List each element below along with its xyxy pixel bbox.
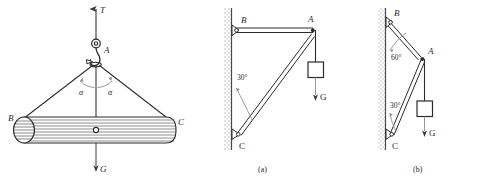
label-end-b: B [8, 113, 14, 123]
label-tension: T [100, 5, 106, 15]
centroid-marker [93, 127, 98, 132]
horizontal-beam-BA [234, 28, 313, 33]
pin-joint-a [311, 28, 315, 32]
label-angle-c-a: 30° [237, 73, 248, 82]
hatched-wall-a [224, 8, 232, 150]
diagonal-strut-CA [238, 34, 315, 136]
pin-support-b [232, 25, 239, 36]
label-joint-c-a: C [239, 141, 245, 151]
panel-a: 30° B A C G (a) [224, 8, 327, 174]
caption-b: (b) [413, 165, 423, 174]
pin-support-b-b [386, 17, 393, 28]
label-apex-a-a: A [307, 14, 314, 24]
angle-arc-c-a [237, 88, 253, 121]
label-angle-alpha-left: α [79, 88, 84, 97]
engineering-diagram: T A α α [0, 0, 501, 183]
label-angle-c-b: 30° [390, 101, 401, 110]
hatched-wall-b [378, 8, 386, 150]
label-joint-b-b: B [394, 8, 400, 18]
label-end-c: C [178, 117, 185, 127]
diagonal-strut-CA-b [391, 60, 425, 135]
suspended-block-b [417, 59, 433, 137]
hook-icon [87, 35, 102, 67]
label-weight-left: G [100, 164, 107, 174]
weight-arrow-left [93, 143, 98, 172]
label-weight-a: G [320, 92, 327, 102]
suspended-block-a [308, 30, 324, 101]
cylinder-log [14, 117, 177, 143]
label-apex-a: A [103, 45, 110, 55]
panel-b: 60° 30° B A C G (b) [378, 8, 436, 174]
label-weight-b: G [429, 128, 436, 138]
caption-a: (a) [258, 165, 267, 174]
figure-container: T A α α [0, 0, 501, 183]
label-joint-b-a: B [241, 15, 247, 25]
pin-support-c-b [386, 129, 394, 139]
label-angle-alpha-right: α [108, 88, 113, 97]
label-joint-c-b: C [392, 141, 398, 151]
label-apex-a-b: A [427, 46, 434, 56]
panel-left: T A α α [8, 5, 185, 174]
label-angle-b-b: 60° [391, 53, 402, 62]
pin-joint-a-b [420, 57, 424, 61]
